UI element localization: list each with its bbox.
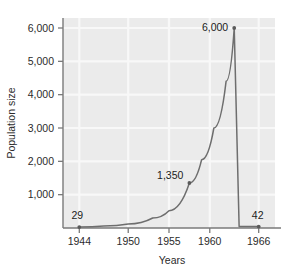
point-label: 29 [71,209,83,221]
data-marker [187,181,191,185]
point-label: 42 [252,209,264,221]
x-axis-ticks [79,228,258,233]
x-tick-label: 1944 [68,235,92,247]
y-axis-title: Population size [5,87,17,158]
y-tick-label: 2,000 [28,155,54,167]
x-tick-label: 1960 [198,235,222,247]
x-tick-label: 1966 [247,235,271,247]
x-axis-title: Years [159,254,185,266]
point-label: 6,000 [202,21,228,33]
y-axis-tick-labels: 1,0002,0003,0004,0005,0006,000 [28,22,54,201]
chart-svg: 1,0002,0003,0004,0005,0006,000 194419501… [0,0,288,271]
data-marker [232,26,236,30]
y-tick-label: 6,000 [28,22,54,34]
y-tick-label: 4,000 [28,88,54,100]
x-axis-tick-labels: 19441950195519601966 [68,235,271,247]
y-tick-label: 3,000 [28,122,54,134]
y-tick-label: 1,000 [28,188,54,200]
data-marker [257,225,261,229]
x-tick-label: 1950 [117,235,141,247]
data-marker [77,225,81,229]
population-growth-chart: 1,0002,0003,0004,0005,0006,000 194419501… [0,0,288,271]
y-tick-label: 5,000 [28,55,54,67]
y-axis-ticks [58,28,63,195]
x-tick-label: 1955 [157,235,181,247]
point-label: 1,350 [157,169,183,181]
